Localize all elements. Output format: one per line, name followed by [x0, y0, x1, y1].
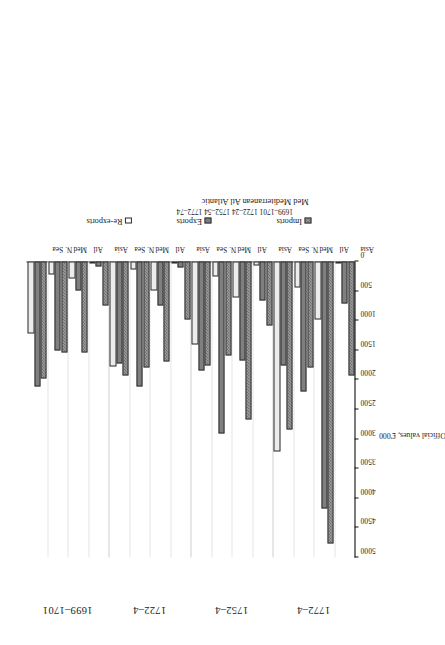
- category-label: N. Sea: [216, 244, 236, 253]
- category-label: N. Sea: [298, 244, 318, 253]
- bar-imports: [81, 261, 87, 352]
- bar-exports: [218, 261, 224, 433]
- axis-tick-label: 2000: [360, 367, 375, 376]
- legend-label: Imports: [276, 216, 301, 225]
- bar-imports: [40, 261, 46, 378]
- axis-tick-label: 2500: [360, 397, 375, 406]
- bar-reexports: [27, 261, 33, 333]
- bar-exports: [95, 261, 101, 266]
- bar-imports: [348, 261, 354, 375]
- axis-tick: [354, 349, 358, 350]
- axis-tick: [354, 438, 358, 439]
- bar-exports: [321, 261, 327, 508]
- period-key: 1699–1701 1722–24 1752–54 1772–74: [176, 206, 292, 215]
- legend-label: Exports: [176, 216, 201, 225]
- bar-reexports: [212, 261, 218, 276]
- legend-item-reexports: Re-exports: [86, 216, 131, 225]
- axis-tick: [354, 379, 358, 380]
- bar-imports: [327, 261, 333, 544]
- category-label: N. Sea: [52, 244, 72, 253]
- period-label: 1752–4: [214, 604, 247, 615]
- category-label: Asia: [360, 244, 374, 253]
- bar-imports: [122, 261, 128, 375]
- bar-imports: [184, 261, 190, 319]
- category-label: Med: [73, 244, 87, 253]
- bar-imports: [245, 261, 251, 419]
- bar-exports: [116, 261, 122, 363]
- bar-exports: [34, 261, 40, 386]
- category-label: N. Sea: [134, 244, 154, 253]
- bar-reexports: [68, 261, 74, 278]
- legend-item-imports: Imports: [276, 216, 311, 225]
- legend-swatch-imports: [304, 217, 311, 224]
- bar-imports: [307, 261, 313, 367]
- bar-reexports: [89, 261, 95, 263]
- bar-reexports: [150, 261, 156, 290]
- bar-exports: [54, 261, 60, 350]
- bar-reexports: [171, 261, 177, 263]
- bar-exports: [198, 261, 204, 370]
- category-label: Med: [319, 244, 333, 253]
- axis-tick-label: 1500: [360, 338, 375, 347]
- abbreviation-key: Med Mediterranean Atl Atlantic: [201, 196, 308, 205]
- bar-imports: [102, 261, 108, 305]
- axis-tick-label: 500: [360, 279, 371, 288]
- axis-tick: [354, 290, 358, 291]
- legend-label: Re-exports: [86, 216, 122, 225]
- axis-tick: [354, 260, 358, 261]
- legend-swatch-exports: [204, 217, 211, 224]
- legend-swatch-reexports: [125, 217, 132, 224]
- bar-imports: [266, 261, 272, 325]
- category-label: Atl: [257, 244, 266, 253]
- bar-reexports: [294, 261, 300, 287]
- bar-exports: [341, 261, 347, 303]
- bar-imports: [61, 261, 67, 352]
- category-label: Asia: [196, 244, 210, 253]
- bar-imports: [204, 261, 210, 365]
- axis-tick-label: 4500: [360, 515, 375, 524]
- plot-area: [26, 261, 354, 557]
- bar-imports: [225, 261, 231, 355]
- category-label: Med: [237, 244, 251, 253]
- axis-tick: [354, 497, 358, 498]
- bar-exports: [157, 261, 163, 305]
- bar-exports: [177, 261, 183, 267]
- category-label: Atl: [339, 244, 348, 253]
- bar-reexports: [335, 261, 341, 263]
- bar-reexports: [314, 261, 320, 319]
- axis-tick-label: 1000: [360, 308, 375, 317]
- period-label: 1772–4: [296, 604, 329, 615]
- axis-tick-label: 5000: [360, 545, 375, 554]
- period-label: 1699–1701: [42, 604, 92, 615]
- bar-exports: [300, 261, 306, 391]
- bar-reexports: [273, 261, 279, 451]
- axis-tick-label: 3500: [360, 456, 375, 465]
- axis-tick: [354, 319, 358, 320]
- category-label: Asia: [278, 244, 292, 253]
- bar-exports: [136, 261, 142, 386]
- bar-reexports: [232, 261, 238, 297]
- period-label: 1722–4: [132, 604, 165, 615]
- bar-reexports: [253, 261, 259, 265]
- bar-reexports: [130, 261, 136, 269]
- axis-tick: [354, 467, 358, 468]
- bar-reexports: [109, 261, 115, 366]
- bar-reexports: [48, 261, 54, 274]
- axis-tick-label: 4000: [360, 486, 375, 495]
- bar-reexports: [191, 261, 197, 344]
- axis-title: Official values, £'000: [379, 430, 445, 439]
- bar-imports: [163, 261, 169, 361]
- axis-tick: [354, 556, 358, 557]
- category-label: Med: [155, 244, 169, 253]
- bar-imports: [286, 261, 292, 429]
- legend-item-exports: Exports: [176, 216, 211, 225]
- axis-tick: [354, 408, 358, 409]
- bar-exports: [239, 261, 245, 360]
- bar-exports: [280, 261, 286, 365]
- bar-exports: [259, 261, 265, 300]
- bar-exports: [75, 261, 81, 290]
- axis-tick-label: 3000: [360, 427, 375, 436]
